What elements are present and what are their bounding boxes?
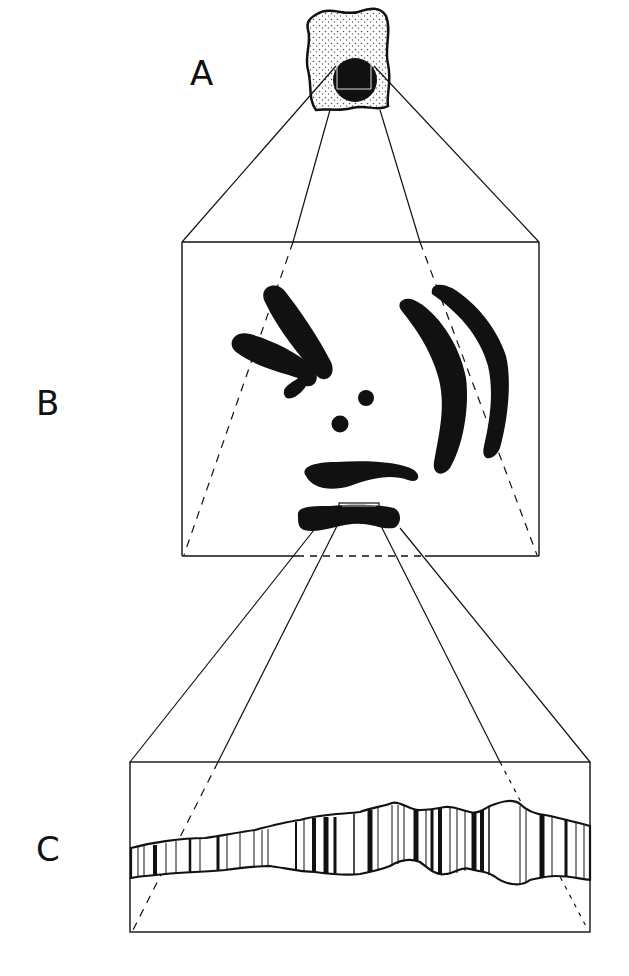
panel-label-b: B [36, 386, 59, 420]
chromosome-5 [304, 461, 418, 488]
panel-label-a: A [190, 56, 213, 90]
banded-chromosome [131, 801, 590, 884]
chromosome-set [232, 285, 509, 531]
figure-canvas: A B C [0, 0, 629, 976]
chromosome-dot-2 [332, 416, 349, 433]
panel-label-c: C [36, 832, 60, 866]
panel-a-cell [307, 9, 390, 110]
chromosome-dot-1 [358, 390, 374, 406]
diagram-svg [0, 0, 629, 976]
nucleus [333, 58, 377, 102]
chromosome-3 [399, 299, 467, 474]
chromosome-6 [298, 505, 400, 531]
